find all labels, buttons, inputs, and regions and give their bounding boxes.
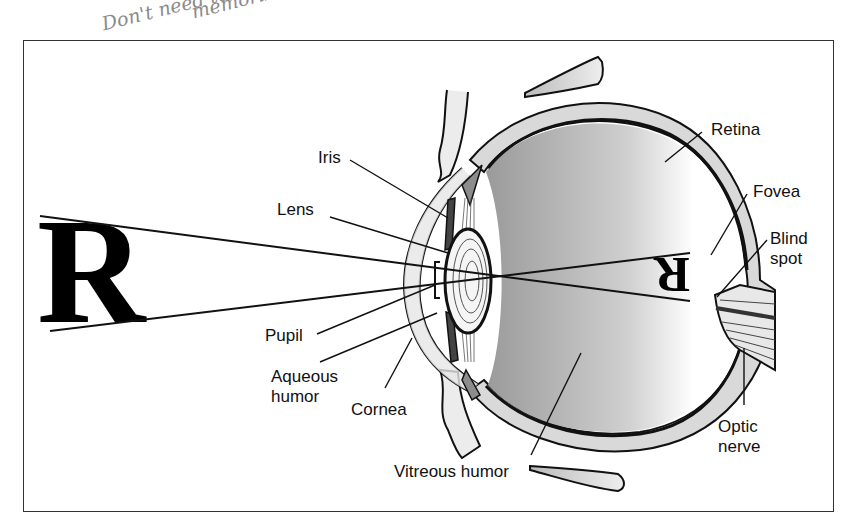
eye-muscle-top — [525, 57, 603, 97]
image-letter: R — [653, 247, 690, 303]
label-vitreous-humor: Vitreous humor — [394, 462, 509, 482]
label-lens: Lens — [277, 200, 314, 220]
eyelid-top — [438, 90, 468, 182]
label-cornea: Cornea — [351, 400, 407, 420]
label-fovea: Fovea — [753, 182, 800, 202]
label-retina: Retina — [711, 120, 760, 140]
label-iris: Iris — [318, 148, 341, 168]
object-letter: R — [37, 188, 147, 354]
label-blind-spot: Blind spot — [770, 229, 820, 269]
label-optic-nerve: Optic nerve — [718, 417, 773, 457]
label-pupil: Pupil — [265, 326, 303, 346]
eye-muscle-bottom — [530, 466, 624, 491]
label-aqueous-humor: Aqueous humor — [271, 367, 356, 407]
vitreous-body — [486, 124, 745, 432]
